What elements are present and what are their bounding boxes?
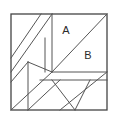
figure-background — [0, 0, 116, 121]
region-label-a: A — [62, 24, 70, 36]
dissection-diagram: A B — [0, 0, 116, 121]
region-label-b: B — [84, 49, 91, 61]
dissection-figure: A B — [0, 0, 116, 121]
